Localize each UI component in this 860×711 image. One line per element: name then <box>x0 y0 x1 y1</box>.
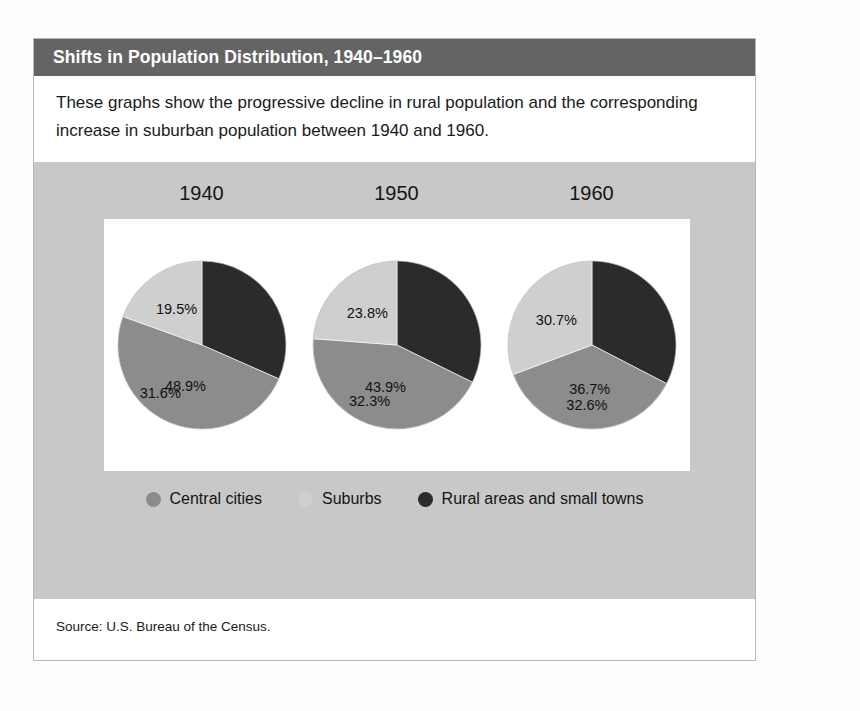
slice-value-label: 32.6% <box>566 397 607 413</box>
slice-value-label: 23.8% <box>347 305 388 321</box>
pie-svg-1940 <box>114 257 290 433</box>
figure-card: Shifts in Population Distribution, 1940–… <box>33 38 756 661</box>
slice-value-label: 32.3% <box>349 393 390 409</box>
figure-description: These graphs show the progressive declin… <box>56 89 716 145</box>
figure-title: Shifts in Population Distribution, 1940–… <box>53 47 422 68</box>
legend-item-central-cities: Central cities <box>146 490 262 508</box>
year-label-1960: 1960 <box>494 182 689 212</box>
legend-swatch-icon <box>298 492 313 507</box>
slice-value-label: 19.5% <box>156 301 197 317</box>
figure-page: Shifts in Population Distribution, 1940–… <box>0 0 860 711</box>
chart-legend: Central citiesSuburbsRural areas and sma… <box>34 484 755 514</box>
pie-chart-1950: 43.9%23.8%32.3% <box>309 257 485 433</box>
pie-chart-1940: 48.9%19.5%31.6% <box>114 257 290 433</box>
source-note: Source: U.S. Bureau of the Census. <box>56 619 271 634</box>
slice-value-label: 36.7% <box>569 381 610 397</box>
figure-description-area: These graphs show the progressive declin… <box>34 76 755 162</box>
legend-swatch-icon <box>418 492 433 507</box>
pie-chart-1960: 36.7%30.7%32.6% <box>504 257 680 433</box>
plot-area: 48.9%19.5%31.6%43.9%23.8%32.3%36.7%30.7%… <box>104 219 690 471</box>
slice-value-label: 30.7% <box>536 312 577 328</box>
legend-item-suburbs: Suburbs <box>298 490 382 508</box>
legend-label: Rural areas and small towns <box>442 490 644 508</box>
legend-label: Suburbs <box>322 490 382 508</box>
legend-label: Central cities <box>170 490 262 508</box>
figure-footer: Source: U.S. Bureau of the Census. <box>34 599 755 660</box>
legend-item-rural: Rural areas and small towns <box>418 490 644 508</box>
chart-panel: 1940 1950 1960 48.9%19.5%31.6%43.9%23.8%… <box>34 162 755 599</box>
legend-swatch-icon <box>146 492 161 507</box>
year-labels-row: 1940 1950 1960 <box>104 182 689 212</box>
year-label-1950: 1950 <box>299 182 494 212</box>
pie-svg-1950 <box>309 257 485 433</box>
pie-slice-suburbs <box>313 261 397 345</box>
slice-value-label: 31.6% <box>140 385 181 401</box>
year-label-1940: 1940 <box>104 182 299 212</box>
figure-title-bar: Shifts in Population Distribution, 1940–… <box>34 39 755 76</box>
pie-chart-group: 48.9%19.5%31.6%43.9%23.8%32.3%36.7%30.7%… <box>104 219 690 471</box>
